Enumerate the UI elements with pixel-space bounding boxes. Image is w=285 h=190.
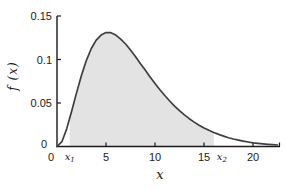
- x2-subscript: 2: [222, 156, 226, 164]
- x1-boundary-label: x1: [65, 152, 75, 164]
- x-tick-label: 15: [198, 151, 210, 163]
- y-tick-label: 0: [41, 138, 47, 150]
- x2-boundary-label: x2: [217, 152, 227, 164]
- chart-canvas: 0510152000.050.10.15: [0, 0, 285, 190]
- y-tick-label: 0.1: [37, 54, 52, 66]
- x1-subscript: 1: [70, 156, 74, 164]
- x-axis-label: x: [156, 168, 163, 181]
- pdf-figure: 0510152000.050.10.15 f (x) x x1 x2: [0, 0, 285, 190]
- x-tick-label: 0: [48, 151, 54, 163]
- x-tick-label: 5: [103, 151, 109, 163]
- x-tick-label: 20: [247, 151, 259, 163]
- y-tick-label: 0.05: [31, 97, 52, 109]
- y-axis-label: f (x): [7, 61, 19, 90]
- y-tick-label: 0.15: [31, 10, 52, 22]
- x-tick-label: 10: [149, 151, 161, 163]
